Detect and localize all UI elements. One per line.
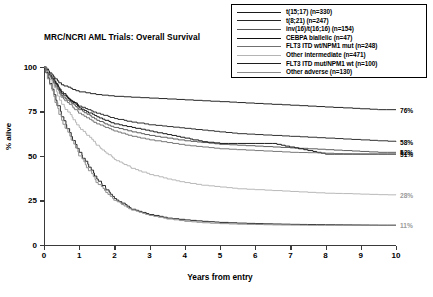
x-axis-tick-label: 9 (359, 251, 363, 260)
endpoint-label: 28% (400, 192, 413, 199)
x-axis-tick-label: 2 (112, 251, 116, 260)
legend-swatch (237, 38, 281, 39)
chart-title: MRC/NCRI AML Trials: Overall Survival (26, 33, 218, 42)
y-axis-tick-label: 75 (28, 107, 37, 116)
x-axis-tick-label: 1 (77, 251, 81, 260)
x-axis-tick-label: 7 (288, 251, 292, 260)
x-axis-tick (290, 246, 291, 250)
x-axis-tick-label: 5 (218, 251, 222, 260)
legend-item: CEBPA biallelic (n=47) (237, 34, 422, 43)
y-axis-tick-label: 100 (24, 63, 37, 72)
legend-item: FLT3 ITD wt/NPM1 mut (n=248) (237, 42, 422, 51)
x-axis-tick-label: 8 (323, 251, 327, 260)
survival-curve (44, 67, 396, 154)
x-axis-tick (396, 246, 397, 250)
legend-swatch (237, 46, 281, 47)
x-axis-tick (114, 246, 115, 250)
x-axis-tick-label: 4 (183, 251, 187, 260)
survival-curves (44, 64, 396, 246)
x-axis-title: Years from entry (44, 272, 396, 282)
legend-label: t(8;21) (n=247) (286, 18, 329, 24)
plot-area: 0255075100 012345678910 76%58%52%51%28%1… (44, 64, 396, 246)
legend-item: Other intermediate (n=471) (237, 51, 422, 60)
legend-item: t(15;17) (n=330) (237, 8, 422, 17)
legend-label: t(15;17) (n=330) (286, 9, 332, 15)
legend-item: inv(16)/t(16;16) (n=154) (237, 25, 422, 34)
y-axis-title: % alive (4, 123, 13, 150)
y-axis-tick-label: 0 (33, 240, 37, 249)
legend-swatch (237, 20, 281, 21)
legend-label: Other intermediate (n=471) (286, 52, 366, 58)
legend-swatch (237, 55, 281, 56)
legend-label: CEBPA biallelic (n=47) (286, 35, 352, 41)
x-axis-tick (150, 246, 151, 250)
y-axis-tick-label: 25 (28, 196, 37, 205)
endpoint-label: 58% (400, 138, 413, 145)
x-axis-tick-label: 3 (147, 251, 151, 260)
x-axis-tick (361, 246, 362, 250)
x-axis-tick-label: 6 (253, 251, 257, 260)
x-axis-tick (255, 246, 256, 250)
legend-item: t(8;21) (n=247) (237, 17, 422, 26)
x-axis-tick (79, 246, 80, 250)
x-axis-tick (44, 246, 45, 250)
endpoint-label: 51% (400, 151, 413, 158)
survival-curve (44, 67, 396, 110)
chart-container: MRC/NCRI AML Trials: Overall Survival t(… (0, 0, 433, 297)
legend-label: FLT3 ITD wt/NPM1 mut (n=248) (286, 43, 377, 49)
x-axis-tick (220, 246, 221, 250)
endpoint-label: 76% (400, 106, 413, 113)
legend-swatch (237, 12, 281, 13)
survival-curve (44, 67, 396, 142)
x-axis-tick (185, 246, 186, 250)
x-axis-tick-label: 0 (42, 251, 46, 260)
survival-curve (44, 67, 396, 152)
endpoint-label: 11% (400, 222, 413, 229)
legend-label: inv(16)/t(16;16) (n=154) (286, 26, 354, 32)
y-axis-tick-label: 50 (28, 151, 37, 160)
legend-swatch (237, 29, 281, 30)
survival-curve (44, 67, 396, 154)
survival-curve (44, 67, 396, 225)
survival-curve (44, 67, 396, 225)
x-axis-tick-label: 10 (392, 251, 401, 260)
x-axis-tick (326, 246, 327, 250)
